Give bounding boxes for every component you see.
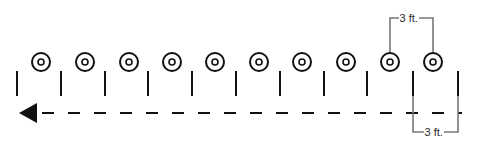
dashed-path bbox=[19, 103, 462, 123]
targets-group bbox=[32, 53, 442, 71]
bottom-dimension-label: 3 ft. bbox=[424, 126, 444, 138]
target-icon bbox=[163, 53, 181, 71]
target-icon bbox=[76, 53, 94, 71]
target-icon bbox=[120, 53, 138, 71]
target-icon bbox=[250, 53, 268, 71]
target-icon bbox=[32, 53, 50, 71]
posts-group bbox=[17, 71, 458, 96]
target-icon bbox=[424, 53, 442, 71]
target-icon bbox=[381, 53, 399, 71]
target-icon bbox=[337, 53, 355, 71]
arrow-left-icon bbox=[19, 103, 37, 123]
target-icon bbox=[206, 53, 224, 71]
target-icon bbox=[293, 53, 311, 71]
top-dimension-label: 3 ft. bbox=[399, 12, 419, 24]
